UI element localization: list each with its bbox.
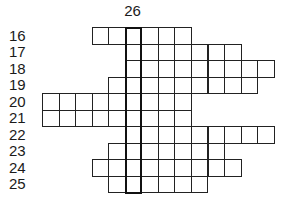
grid-cell[interactable] (141, 60, 159, 78)
grid-cell[interactable] (191, 77, 209, 95)
row-label: 17 (9, 44, 31, 60)
grid-cell[interactable] (174, 176, 192, 194)
grid-cell[interactable] (224, 159, 242, 177)
grid-cell[interactable] (141, 176, 159, 194)
grid-cell[interactable] (42, 93, 60, 111)
row-label: 19 (9, 77, 31, 93)
grid-cell[interactable] (224, 126, 242, 144)
grid-cell[interactable] (108, 110, 126, 128)
grid-cell[interactable] (92, 110, 110, 128)
grid-cell[interactable] (174, 60, 192, 78)
grid-cell[interactable] (125, 126, 143, 144)
grid-cell[interactable] (158, 143, 176, 161)
grid-cell[interactable] (158, 27, 176, 45)
grid-cell[interactable] (158, 44, 176, 62)
grid-cell[interactable] (208, 159, 226, 177)
grid-cell[interactable] (191, 143, 209, 161)
grid-cell[interactable] (141, 27, 159, 45)
grid-cell[interactable] (125, 27, 143, 45)
grid-cell[interactable] (174, 110, 192, 128)
grid-cell[interactable] (257, 60, 275, 78)
grid-cell[interactable] (59, 93, 77, 111)
grid-cell[interactable] (141, 44, 159, 62)
grid-cell[interactable] (125, 143, 143, 161)
grid-cell[interactable] (92, 93, 110, 111)
grid-cell[interactable] (125, 159, 143, 177)
row-label: 16 (9, 28, 31, 44)
grid-cell[interactable] (241, 77, 259, 95)
grid-cell[interactable] (174, 77, 192, 95)
row-label: 21 (9, 110, 31, 126)
grid-cell[interactable] (158, 110, 176, 128)
grid-cell[interactable] (75, 110, 93, 128)
grid-cell[interactable] (174, 93, 192, 111)
grid-cell[interactable] (108, 159, 126, 177)
grid-cell[interactable] (208, 143, 226, 161)
grid-cell[interactable] (108, 27, 126, 45)
grid-cell[interactable] (108, 77, 126, 95)
grid-cell[interactable] (92, 27, 110, 45)
grid-cell[interactable] (257, 126, 275, 144)
grid-cell[interactable] (208, 126, 226, 144)
grid-cell[interactable] (191, 176, 209, 194)
row-label: 23 (9, 143, 31, 159)
grid-cell[interactable] (141, 126, 159, 144)
grid-cell[interactable] (108, 176, 126, 194)
grid-cell[interactable] (108, 93, 126, 111)
row-label: 20 (9, 94, 31, 110)
grid-cell[interactable] (208, 60, 226, 78)
grid-cell[interactable] (224, 44, 242, 62)
grid-cell[interactable] (158, 77, 176, 95)
grid-cell[interactable] (241, 126, 259, 144)
grid-cell[interactable] (174, 126, 192, 144)
grid-cell[interactable] (125, 60, 143, 78)
grid-cell[interactable] (174, 44, 192, 62)
grid-cell[interactable] (125, 93, 143, 111)
grid-cell[interactable] (191, 44, 209, 62)
grid-cell[interactable] (191, 159, 209, 177)
grid-cell[interactable] (158, 159, 176, 177)
grid-cell[interactable] (208, 44, 226, 62)
grid-cell[interactable] (141, 143, 159, 161)
column-label-26: 26 (119, 2, 146, 20)
grid-cell[interactable] (224, 77, 242, 95)
grid-cell[interactable] (191, 60, 209, 78)
grid-cell[interactable] (59, 110, 77, 128)
grid-cell[interactable] (208, 77, 226, 95)
grid-cell[interactable] (174, 27, 192, 45)
grid-cell[interactable] (158, 176, 176, 194)
row-label: 25 (9, 176, 31, 192)
grid-cell[interactable] (224, 60, 242, 78)
grid-cell[interactable] (92, 159, 110, 177)
grid-cell[interactable] (75, 93, 93, 111)
row-label: 24 (9, 160, 31, 176)
grid-cell[interactable] (125, 176, 143, 194)
row-label: 22 (9, 127, 31, 143)
grid-cell[interactable] (108, 143, 126, 161)
grid-cell[interactable] (141, 159, 159, 177)
grid-cell[interactable] (141, 110, 159, 128)
row-label: 18 (9, 61, 31, 77)
grid-cell[interactable] (125, 77, 143, 95)
grid-cell[interactable] (141, 93, 159, 111)
grid-cell[interactable] (174, 159, 192, 177)
grid-cell[interactable] (241, 60, 259, 78)
grid-cell[interactable] (141, 77, 159, 95)
grid-cell[interactable] (191, 126, 209, 144)
grid-cell[interactable] (42, 110, 60, 128)
grid-cell[interactable] (158, 93, 176, 111)
grid-cell[interactable] (158, 126, 176, 144)
grid-cell[interactable] (158, 60, 176, 78)
grid-cell[interactable] (125, 110, 143, 128)
grid-cell[interactable] (125, 44, 143, 62)
grid-cell[interactable] (174, 143, 192, 161)
